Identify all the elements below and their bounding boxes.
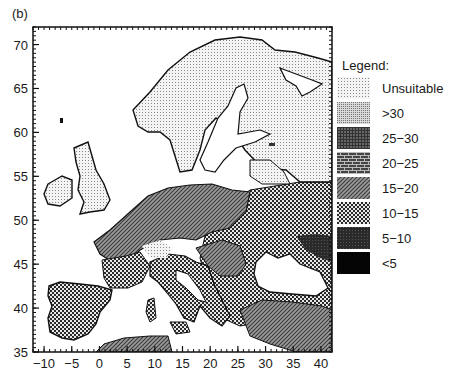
map-area — [44, 37, 332, 352]
legend-item: 10−15 — [334, 201, 458, 225]
y-tick-label: 45 — [14, 257, 28, 272]
legend-swatch-solid-black — [337, 252, 370, 274]
x-tick-label: 30 — [258, 356, 272, 371]
x-tick-label: 40 — [314, 356, 328, 371]
x-tick-label: 0 — [96, 356, 103, 371]
x-tick-label: 20 — [203, 356, 217, 371]
legend-item: 25−30 — [334, 126, 458, 150]
legend-swatch-grid — [337, 127, 370, 149]
legend-swatch-checkerboard — [337, 202, 370, 224]
region-sicily — [170, 322, 190, 334]
legend-swatch-fine-dots — [337, 77, 370, 99]
legend-item: Unsuitable — [334, 76, 458, 100]
x-tick-label: 35 — [286, 356, 300, 371]
legend-label: 25−30 — [382, 131, 419, 146]
legend-item: >30 — [334, 101, 458, 125]
legend-label: 5−10 — [382, 231, 411, 246]
legend-label: <5 — [382, 256, 397, 271]
legend-label: 10−15 — [382, 206, 419, 221]
region-sardinia — [146, 298, 156, 322]
y-tick-label: 65 — [14, 81, 28, 96]
legend: Legend: Unsuitable>3025−3020−2515−2010−1… — [334, 58, 458, 276]
region-anatolia — [240, 300, 332, 352]
region-ireland — [44, 176, 72, 206]
legend-item: <5 — [334, 251, 458, 275]
y-tick-label: 55 — [14, 169, 28, 184]
legend-label: 15−20 — [382, 181, 419, 196]
y-tick-label: 35 — [14, 345, 28, 360]
region-faroe — [60, 118, 63, 123]
x-tick-label: 15 — [175, 356, 189, 371]
legend-swatch-diagonal-hatch — [337, 177, 370, 199]
x-tick-labels: −10−50510152025303540 — [33, 356, 328, 371]
legend-title: Legend: — [342, 58, 458, 73]
legend-swatch-dark-grid — [337, 227, 370, 249]
region-great-britain — [74, 142, 110, 214]
x-tick-label: 10 — [148, 356, 162, 371]
legend-item: 15−20 — [334, 176, 458, 200]
legend-swatch-dense-dots — [337, 102, 370, 124]
legend-label: >30 — [382, 106, 404, 121]
legend-item: 5−10 — [334, 226, 458, 250]
y-tick-labels: 7065605550454035 — [14, 38, 28, 360]
legend-swatch-bricks — [337, 152, 370, 174]
y-tick-label: 50 — [14, 213, 28, 228]
region-small-island — [269, 143, 275, 146]
x-tick-label: 5 — [124, 356, 131, 371]
y-tick-label: 60 — [14, 125, 28, 140]
legend-label: 20−25 — [382, 156, 419, 171]
legend-item: 20−25 — [334, 151, 458, 175]
x-tick-label: −10 — [33, 356, 55, 371]
y-tick-label: 40 — [14, 301, 28, 316]
legend-label: Unsuitable — [382, 81, 443, 96]
y-tick-label: 70 — [14, 38, 28, 53]
x-tick-label: 25 — [231, 356, 245, 371]
x-tick-label: −5 — [64, 356, 79, 371]
region-iberia — [48, 282, 112, 340]
